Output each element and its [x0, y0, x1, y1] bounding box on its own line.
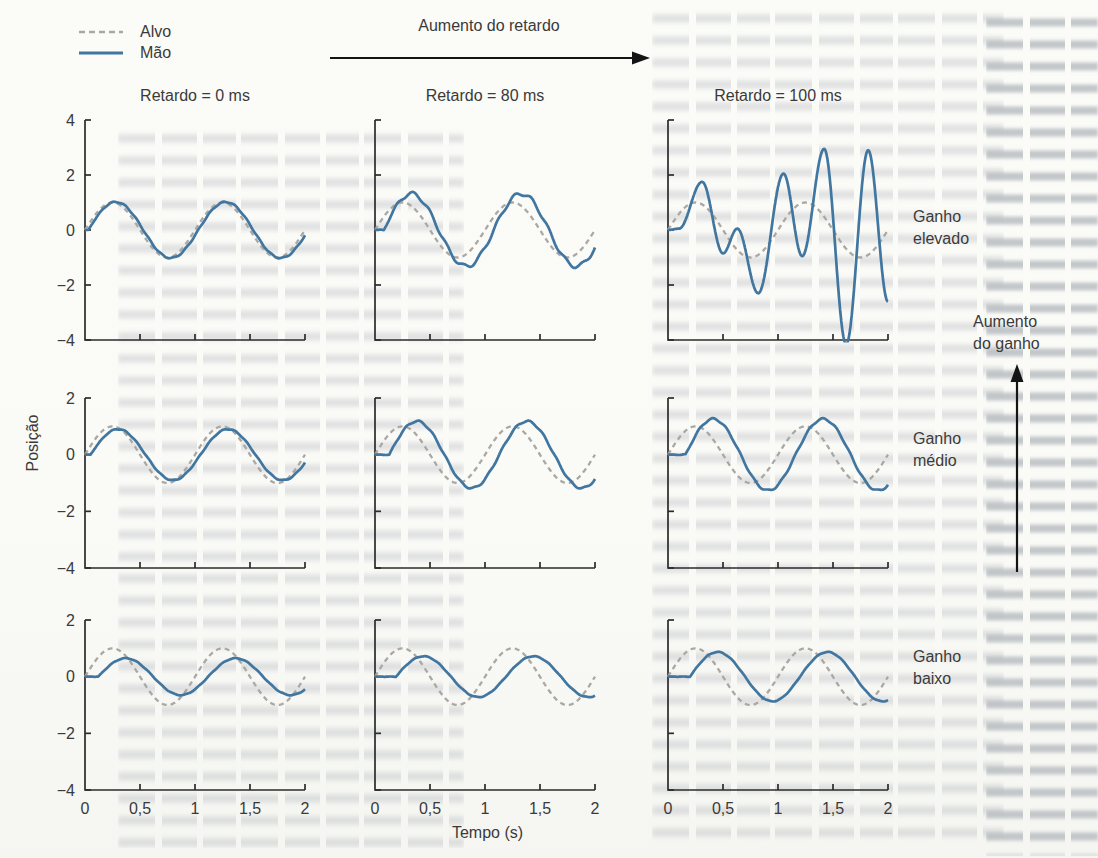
panel-1-2-target-curve: [668, 426, 888, 483]
panel-0-2-hand-curve: [668, 149, 888, 344]
y-tick-label: 2: [66, 612, 75, 629]
panel-2-2-axes: [668, 620, 888, 790]
panel-1-0-curves: [85, 426, 305, 483]
panel-0-0-hand-curve: [85, 202, 305, 259]
row-label-line: Ganho: [913, 428, 961, 450]
x-tick-label: 2: [591, 800, 600, 817]
row-label-high-gain: Ganho elevado: [913, 206, 969, 250]
dashed-line-sample-icon: [78, 29, 124, 35]
legend-label-target: Alvo: [140, 23, 171, 41]
y-tick-label: 4: [66, 112, 75, 129]
panel-2-1-axes: [375, 620, 595, 790]
x-tick-label: 1: [191, 800, 200, 817]
y-tick-label: −2: [57, 277, 75, 294]
panel-2-0-target-curve: [85, 648, 305, 705]
scanned-book-page: 420−2−420−2−420−2−400,511,5200,511,5200,…: [0, 0, 1098, 858]
row-label-line: Ganho: [913, 206, 969, 228]
panel-2-1-curves: [375, 648, 595, 705]
x-tick-label: 2: [884, 800, 893, 817]
y-axis-title: Posição: [24, 415, 42, 472]
panel-1-0-axes: [85, 398, 305, 568]
panel-0-0-target-curve: [85, 203, 305, 258]
panel-2-0-curves: [85, 648, 305, 705]
right-arrow-icon: [330, 49, 652, 67]
x-tick-label: 0,5: [129, 800, 151, 817]
x-tick-label: 2: [301, 800, 310, 817]
panel-0-1-curves: [375, 192, 595, 268]
y-tick-label: 0: [66, 446, 75, 463]
gain-axis-title-line: Aumento: [973, 311, 1040, 333]
y-tick-label: 0: [66, 668, 75, 685]
x-tick-label: 1,5: [529, 800, 551, 817]
column-header-delay-0ms: Retardo = 0 ms: [85, 87, 305, 105]
up-arrow-icon: [1007, 364, 1027, 576]
row-label-line: elevado: [913, 228, 969, 250]
panel-0-2-target-curve: [668, 203, 888, 258]
y-tick-label: −4: [57, 560, 75, 577]
panel-0-0-curves: [85, 202, 305, 259]
y-tick-label: −2: [57, 725, 75, 742]
panel-1-1-target-curve: [375, 426, 595, 483]
y-tick-label: −4: [57, 332, 75, 349]
gain-axis-title-line: do ganho: [973, 333, 1040, 355]
x-axis-title: Tempo (s): [375, 824, 600, 842]
x-tick-label: 0,5: [419, 800, 441, 817]
row-label-low-gain: Ganho baixo: [913, 646, 961, 690]
row-label-medium-gain: Ganho médio: [913, 428, 961, 472]
legend: Alvo Mão: [78, 21, 171, 63]
x-tick-label: 1,5: [822, 800, 844, 817]
x-tick-label: 0: [371, 800, 380, 817]
x-tick-label: 0,5: [712, 800, 734, 817]
x-tick-label: 1,5: [239, 800, 261, 817]
legend-label-hand: Mão: [140, 44, 171, 62]
y-tick-label: 0: [66, 222, 75, 239]
panel-0-1-axes: [375, 120, 595, 340]
y-tick-label: 2: [66, 167, 75, 184]
panel-0-0-axes: [85, 120, 305, 340]
panel-0-2-curves: [668, 149, 888, 344]
solid-line-sample-icon: [78, 50, 124, 56]
x-tick-label: 0: [664, 800, 673, 817]
y-tick-label: −4: [57, 782, 75, 799]
panel-2-2-curves: [668, 648, 888, 705]
row-label-line: médio: [913, 450, 961, 472]
row-label-line: Ganho: [913, 646, 961, 668]
panel-0-2-axes: [668, 120, 888, 340]
delay-axis-title: Aumento do retardo: [330, 17, 648, 35]
column-header-delay-100ms: Retardo = 100 ms: [668, 87, 888, 105]
x-tick-label: 1: [481, 800, 490, 817]
row-label-line: baixo: [913, 668, 961, 690]
legend-item-hand: Mão: [78, 42, 171, 63]
panel-1-2-curves: [668, 418, 888, 490]
x-tick-label: 0: [81, 800, 90, 817]
gain-axis-title: Aumento do ganho: [973, 311, 1040, 355]
y-tick-label: −2: [57, 503, 75, 520]
panel-2-0-axes: [85, 620, 305, 790]
panel-1-1-curves: [375, 421, 595, 489]
column-header-delay-80ms: Retardo = 80 ms: [375, 87, 595, 105]
x-tick-label: 1: [774, 800, 783, 817]
y-tick-label: 2: [66, 390, 75, 407]
legend-item-target: Alvo: [78, 21, 171, 42]
